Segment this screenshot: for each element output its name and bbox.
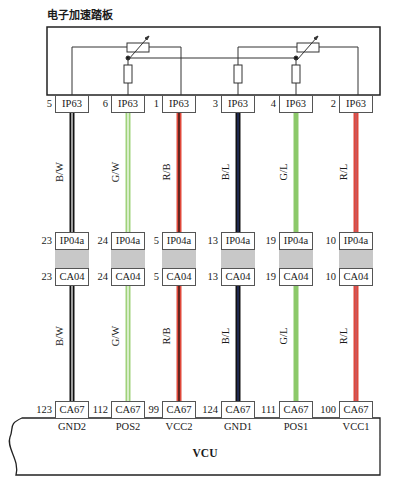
pin-number: 23 [30,268,52,286]
connector-ip63: IP63 [279,95,313,113]
connector-ip63: IP63 [55,95,89,113]
pin-number: 19 [254,232,276,250]
connector-ip04a: IP04a [221,232,255,250]
inline-connector-junction [221,250,255,268]
wire-color-label: G/L [278,321,290,351]
connector-ip04a: IP04a [162,232,196,250]
wire-color-label: G/L [278,157,290,187]
pin-number: 4 [254,95,276,113]
pedal-enclosure [47,27,380,95]
connector-ca67: CA67 [339,401,373,419]
inline-connector-junction [55,250,89,268]
wire-color-label: G/W [110,157,122,187]
pin-number: 5 [30,95,52,113]
pin-number: 24 [86,268,108,286]
pin-number: 5 [137,268,159,286]
connector-ca04: CA04 [279,268,313,286]
pin-number: 13 [196,232,218,250]
signal-label: GND1 [213,421,263,432]
position-sensor-2 [72,36,296,95]
pin-number: 10 [314,268,336,286]
pin-number: 112 [86,401,108,419]
connector-ip04a: IP04a [339,232,373,250]
position-sensor-1 [234,36,358,95]
inline-connector-junction [279,250,313,268]
resistor-icon [234,65,242,83]
connector-ip04a: IP04a [55,232,89,250]
pin-number: 24 [86,232,108,250]
resistor-icon [124,65,132,83]
connector-ca67: CA67 [55,401,89,419]
inline-connector-junction [339,250,373,268]
connector-ip63: IP63 [162,95,196,113]
inline-connector-junction [111,250,145,268]
pin-number: 23 [30,232,52,250]
wire-color-label: R/B [161,321,173,351]
inline-connector-junction [162,250,196,268]
pin-number: 2 [314,95,336,113]
pin-number: 1 [137,95,159,113]
signal-label: POS2 [103,421,153,432]
pin-number: 3 [196,95,218,113]
wire-color-label: B/W [54,157,66,187]
pin-number: 123 [30,401,52,419]
pin-number: 6 [86,95,108,113]
wire-color-label: B/L [220,321,232,351]
pin-number: 19 [254,268,276,286]
connector-ip04a: IP04a [279,232,313,250]
vcu-label: VCU [185,447,225,459]
connector-ca67: CA67 [221,401,255,419]
pin-number: 111 [254,401,276,419]
wire-color-label: R/L [338,157,350,187]
pin-number: 99 [137,401,159,419]
connector-ca67: CA67 [279,401,313,419]
signal-label: VCC1 [331,421,381,432]
wire-color-label: G/W [110,321,122,351]
connector-ca67: CA67 [162,401,196,419]
pin-number: 124 [196,401,218,419]
wire-color-label: R/B [161,157,173,187]
wire-color-label: B/W [54,321,66,351]
connector-ip63: IP63 [221,95,255,113]
connector-ca04: CA04 [162,268,196,286]
pin-number: 100 [314,401,336,419]
signal-label: GND2 [47,421,97,432]
connector-ca04: CA04 [221,268,255,286]
connector-ca04: CA04 [55,268,89,286]
pin-number: 5 [137,232,159,250]
pin-number: 10 [314,232,336,250]
signal-label: VCC2 [154,421,204,432]
resistor-icon [292,65,300,83]
wire-color-label: R/L [338,321,350,351]
pin-number: 13 [196,268,218,286]
connector-ip63: IP63 [339,95,373,113]
wire-color-label: B/L [220,157,232,187]
connector-ca04: CA04 [339,268,373,286]
signal-label: POS1 [271,421,321,432]
